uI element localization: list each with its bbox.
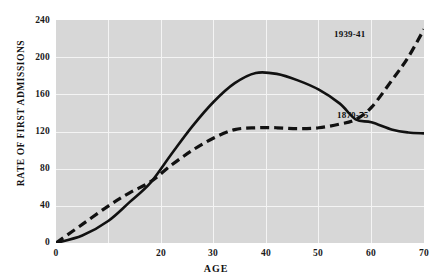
x-tick-50: 50 <box>303 248 333 258</box>
chart-figure: 240 200 160 120 80 40 0 0 20 30 40 50 60… <box>0 0 432 280</box>
y-tick-120: 120 <box>8 126 50 136</box>
series-annotation-1870-75: 1870-75 <box>337 110 368 120</box>
y-tick-80: 80 <box>8 163 50 173</box>
curves-svg <box>56 20 424 243</box>
x-axis-label: AGE <box>0 263 432 274</box>
y-tick-160: 160 <box>8 89 50 99</box>
y-tick-240: 240 <box>8 15 50 25</box>
series-line-1939-41 <box>56 29 424 243</box>
x-tick-70: 70 <box>409 248 432 258</box>
y-tick-40: 40 <box>8 200 50 210</box>
x-tick-40: 40 <box>251 248 281 258</box>
x-tick-0: 0 <box>41 248 71 258</box>
x-tick-20: 20 <box>146 248 176 258</box>
series-annotation-1939-41: 1939-41 <box>334 29 365 39</box>
y-axis-label: RATE OF FIRST ADMISSIONS <box>16 38 26 188</box>
x-tick-30: 30 <box>198 248 228 258</box>
plot-area: 1939-41 1870-75 <box>56 20 424 243</box>
series-line-1870-75 <box>56 72 424 243</box>
y-tick-0: 0 <box>8 237 50 247</box>
x-tick-60: 60 <box>356 248 386 258</box>
y-tick-200: 200 <box>8 52 50 62</box>
